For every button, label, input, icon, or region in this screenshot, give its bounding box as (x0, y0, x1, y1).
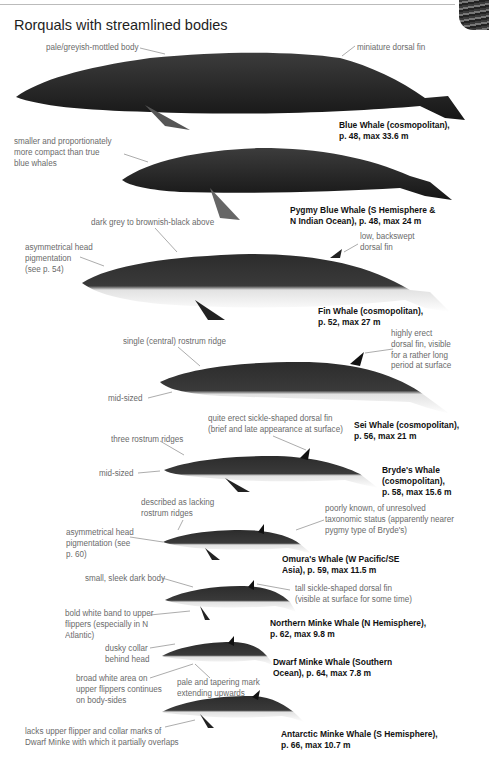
note: small, sleek dark body (85, 573, 165, 584)
note: bold white band to upper flippers (espec… (65, 608, 154, 640)
caption-line: Antarctic Minke Whale (S Hemisphere), (281, 728, 438, 739)
caption-line: Sei Whale (cosmopolitan), (354, 419, 459, 430)
caption-line: Blue Whale (cosmopolitan), (339, 119, 450, 130)
note-line: flippers (especially in N (65, 619, 154, 630)
note-line: tall sickle-shaped dorsal fin (295, 583, 412, 594)
note: low, backswept dorsal fin (360, 231, 414, 253)
caption-line: p. 56, max 21 m (354, 430, 459, 441)
species-caption: Dwarf Minke Whale (Southern Ocean), p. 6… (273, 656, 392, 678)
species-caption: Omura's Whale (W Pacific/SE Asia), p. 59… (282, 553, 399, 575)
note: mid-sized (99, 468, 134, 479)
note: asymmetrical head pigmentation (see p. 6… (66, 527, 134, 559)
caption-line: Bryde's Whale (382, 464, 451, 475)
note: quite erect sickle-shaped dorsal fin (br… (208, 413, 343, 435)
caption-line: (cosmopolitan), (382, 475, 451, 486)
note: miniature dorsal fin (357, 42, 425, 53)
note-line: pigmentation (see (66, 538, 134, 549)
caption-line: p. 66, max 10.7 m (281, 739, 438, 750)
note-line: blue whales (14, 158, 112, 169)
note-line: Atlantic) (65, 630, 154, 641)
caption-line: p. 58, max 15.6 m (382, 486, 451, 497)
species-caption: Northern Minke Whale (N Hemisphere), p. … (270, 617, 426, 639)
note-line: (see p. 54) (25, 264, 93, 275)
species-caption: Fin Whale (cosmopolitan), p. 52, max 27 … (318, 305, 423, 327)
species-caption: Sei Whale (cosmopolitan), p. 56, max 21 … (354, 419, 459, 441)
note-line: lacks upper flipper and collar marks of (25, 726, 179, 737)
note: described as lacking rostrum ridges (141, 497, 214, 519)
note: poorly known, of unresolved taxonomic st… (325, 503, 454, 535)
note-line: taxonomic status (apparently nearer (325, 514, 454, 525)
dwarf-minke-whale-illustration (162, 636, 274, 666)
note-line: (visible at surface for some time) (295, 594, 412, 605)
note-line: on body-sides (76, 695, 162, 706)
note-line: p. 60) (66, 549, 134, 560)
note: dusky collar behind head (105, 643, 150, 665)
note: lacks upper flipper and collar marks of … (25, 726, 179, 748)
note-line: period at surface (391, 360, 451, 371)
note-line: low, backswept (360, 231, 414, 242)
note-line: for a rather long (391, 350, 451, 361)
note-line: Dwarf Minke with which it partially over… (25, 737, 179, 748)
note-line: asymmetrical head (66, 527, 134, 538)
note-line: upper flippers continues (76, 684, 162, 695)
note: smaller and proportionately more compact… (14, 136, 112, 168)
note-line: quite erect sickle-shaped dorsal fin (208, 413, 343, 424)
note-line: bold white band to upper (65, 608, 154, 619)
species-caption: Bryde's Whale (cosmopolitan), p. 58, max… (382, 464, 451, 497)
caption-line: Pygmy Blue Whale (S Hemisphere & (290, 204, 435, 215)
note-line: asymmetrical head (25, 242, 93, 253)
note-line: rostrum ridges (141, 508, 214, 519)
note-line: broad white area on (76, 673, 162, 684)
caption-line: Northern Minke Whale (N Hemisphere), (270, 617, 426, 628)
note-line: more compact than true (14, 147, 112, 158)
northern-minke-whale-illustration (165, 580, 296, 620)
caption-line: p. 52, max 27 m (318, 316, 423, 327)
note-line: pale and tapering mark (177, 677, 260, 688)
note: dark grey to brownish-black above (91, 217, 214, 228)
note: asymmetrical head pigmentation (see p. 5… (25, 242, 93, 274)
caption-line: p. 48, max 33.6 m (339, 130, 450, 141)
species-caption: Antarctic Minke Whale (S Hemisphere), p.… (281, 728, 438, 750)
note: pale/greyish-mottled body (46, 42, 139, 53)
caption-line: p. 62, max 9.8 m (270, 628, 426, 639)
note: broad white area on upper flippers conti… (76, 673, 162, 705)
note: single (central) rostrum ridge (123, 336, 226, 347)
species-caption: Pygmy Blue Whale (S Hemisphere & N India… (290, 204, 435, 226)
caption-line: N Indian Ocean), p. 48, max 24 m (290, 215, 435, 226)
note: three rostrum ridges (111, 434, 183, 445)
note-line: poorly known, of unresolved (325, 503, 454, 514)
note-line: pigmentation (25, 253, 93, 264)
note: pale and tapering mark extending upwards (177, 677, 260, 699)
brydes-whale-illustration (164, 448, 378, 492)
species-caption: Blue Whale (cosmopolitan), p. 48, max 33… (339, 119, 450, 141)
note: tall sickle-shaped dorsal fin (visible a… (295, 583, 412, 605)
note-line: pygmy type of Bryde's) (325, 525, 454, 536)
note: highly erect dorsal fin, visible for a r… (391, 328, 451, 371)
note-line: behind head (105, 654, 150, 665)
caption-line: Ocean), p. 64, max 7.8 m (273, 667, 392, 678)
note: mid-sized (108, 393, 143, 404)
note-line: dusky collar (105, 643, 150, 654)
caption-line: Dwarf Minke Whale (Southern (273, 656, 392, 667)
note-line: (brief and late appearance at surface) (208, 424, 343, 435)
note-line: highly erect (391, 328, 451, 339)
note-line: dorsal fin (360, 242, 414, 253)
note-line: dorsal fin, visible (391, 339, 451, 350)
caption-line: Asia), p. 59, max 11.5 m (282, 564, 399, 575)
note-line: described as lacking (141, 497, 214, 508)
note-line: smaller and proportionately (14, 136, 112, 147)
caption-line: Fin Whale (cosmopolitan), (318, 305, 423, 316)
note-line: extending upwards (177, 688, 260, 699)
caption-line: Omura's Whale (W Pacific/SE (282, 553, 399, 564)
